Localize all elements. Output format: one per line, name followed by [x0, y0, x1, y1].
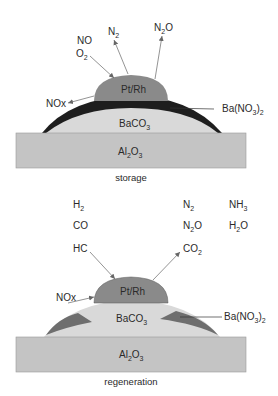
regen-caption: regeneration — [104, 376, 157, 387]
storage-panel: NO O2 N2 N2O NOx Pt/Rh BaCO3 Al2O3 Ba(NO… — [16, 22, 264, 183]
regen-label-h2o: H2O — [229, 220, 248, 233]
storage-label-n2o: N2O — [154, 22, 173, 35]
regeneration-panel: H2 CO HC N2 N2O CO2 NH3 H2O NOx Pt/Rh Ba… — [16, 199, 266, 387]
regen-arrow-hc-in — [90, 252, 115, 279]
regen-label-nh3: NH3 — [229, 199, 247, 212]
regen-label-baco3: BaCO3 — [116, 313, 147, 326]
storage-label-n2: N2 — [108, 26, 119, 39]
nsr-catalyst-diagram: NO O2 N2 N2O NOx Pt/Rh BaCO3 Al2O3 Ba(NO… — [0, 0, 278, 396]
regen-label-co2: CO2 — [183, 243, 202, 256]
storage-label-o2: O2 — [76, 48, 88, 61]
storage-label-nox: NOx — [46, 98, 66, 109]
storage-arrow-n2-out — [114, 40, 128, 74]
regen-label-hc: HC — [73, 243, 87, 254]
regen-label-h2: H2 — [73, 199, 84, 212]
regen-label-n2: N2 — [183, 199, 194, 212]
storage-caption: storage — [115, 172, 147, 183]
storage-arrow-nox-out — [68, 96, 94, 103]
storage-arrow-n2o-out — [155, 36, 162, 79]
storage-label-no: NO — [77, 35, 92, 46]
storage-label-pt-rh: Pt/Rh — [121, 84, 146, 95]
regen-label-nox: NOx — [56, 292, 76, 303]
storage-arrow-o2-in — [90, 56, 114, 78]
storage-label-ba-nitrate: Ba(NO3)2 — [222, 103, 264, 116]
regen-label-co: CO — [73, 220, 88, 231]
regen-label-ba-nitrate: Ba(NO3)2 — [224, 311, 266, 324]
regen-arrow-co2-out — [153, 252, 180, 280]
regen-label-pt-rh: Pt/Rh — [120, 286, 145, 297]
regen-label-n2o: N2O — [183, 220, 202, 233]
storage-label-baco3: BaCO3 — [119, 118, 150, 131]
